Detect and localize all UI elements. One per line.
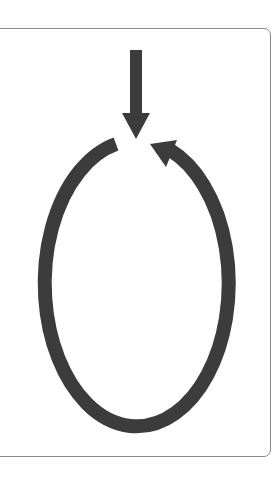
arrow-down-icon [122, 50, 150, 139]
cycle-arrow-icon [45, 140, 229, 426]
cycle-diagram [0, 0, 280, 477]
